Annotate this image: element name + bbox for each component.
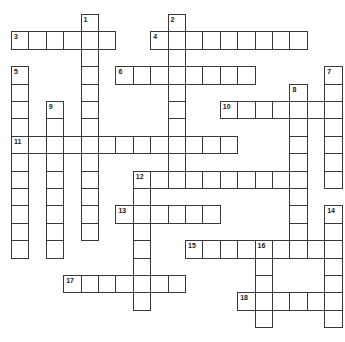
crossword-cell[interactable] — [255, 31, 273, 49]
crossword-cell[interactable]: 12 — [133, 171, 151, 189]
crossword-cell[interactable] — [46, 153, 64, 171]
crossword-cell[interactable] — [220, 171, 238, 189]
crossword-cell[interactable] — [289, 136, 307, 154]
crossword-cell[interactable] — [133, 292, 151, 310]
crossword-cell[interactable] — [63, 136, 81, 154]
crossword-cell[interactable] — [81, 49, 99, 67]
crossword-cell[interactable] — [46, 188, 64, 206]
crossword-cell[interactable] — [202, 66, 220, 84]
crossword-cell[interactable] — [289, 171, 307, 189]
crossword-cell[interactable] — [272, 101, 290, 119]
crossword-cell[interactable] — [133, 136, 151, 154]
crossword-cell[interactable] — [202, 31, 220, 49]
crossword-cell[interactable] — [28, 136, 46, 154]
crossword-cell[interactable] — [81, 101, 99, 119]
crossword-cell[interactable] — [81, 275, 99, 293]
crossword-cell[interactable] — [307, 292, 325, 310]
crossword-cell[interactable] — [324, 258, 342, 276]
crossword-cell[interactable] — [150, 171, 168, 189]
crossword-cell[interactable] — [98, 136, 116, 154]
crossword-cell[interactable]: 3 — [11, 31, 29, 49]
crossword-cell[interactable] — [133, 258, 151, 276]
crossword-cell[interactable] — [98, 275, 116, 293]
crossword-cell[interactable] — [46, 118, 64, 136]
crossword-cell[interactable]: 11 — [11, 136, 29, 154]
crossword-cell[interactable] — [255, 310, 273, 328]
crossword-cell[interactable]: 5 — [11, 66, 29, 84]
crossword-cell[interactable]: 4 — [150, 31, 168, 49]
crossword-cell[interactable] — [202, 240, 220, 258]
crossword-cell[interactable] — [255, 258, 273, 276]
crossword-cell[interactable] — [255, 292, 273, 310]
crossword-cell[interactable] — [289, 101, 307, 119]
crossword-cell[interactable]: 18 — [237, 292, 255, 310]
crossword-cell[interactable]: 15 — [185, 240, 203, 258]
crossword-cell[interactable] — [81, 66, 99, 84]
crossword-cell[interactable] — [168, 205, 186, 223]
crossword-cell[interactable] — [11, 205, 29, 223]
crossword-cell[interactable] — [81, 188, 99, 206]
crossword-cell[interactable]: 16 — [255, 240, 273, 258]
crossword-cell[interactable] — [237, 66, 255, 84]
crossword-cell[interactable] — [220, 240, 238, 258]
crossword-cell[interactable] — [46, 205, 64, 223]
crossword-cell[interactable] — [150, 275, 168, 293]
crossword-cell[interactable] — [324, 223, 342, 241]
crossword-cell[interactable] — [324, 101, 342, 119]
crossword-cell[interactable]: 2 — [168, 14, 186, 32]
crossword-cell[interactable] — [307, 101, 325, 119]
crossword-cell[interactable] — [185, 171, 203, 189]
crossword-cell[interactable] — [11, 84, 29, 102]
crossword-cell[interactable]: 14 — [324, 205, 342, 223]
crossword-cell[interactable] — [133, 66, 151, 84]
crossword-cell[interactable] — [81, 84, 99, 102]
crossword-cell[interactable] — [272, 240, 290, 258]
crossword-cell[interactable] — [168, 171, 186, 189]
crossword-cell[interactable] — [133, 188, 151, 206]
crossword-cell[interactable] — [168, 118, 186, 136]
crossword-cell[interactable] — [185, 66, 203, 84]
crossword-cell[interactable] — [202, 171, 220, 189]
crossword-cell[interactable] — [98, 31, 116, 49]
crossword-cell[interactable] — [324, 118, 342, 136]
crossword-cell[interactable] — [168, 31, 186, 49]
crossword-cell[interactable] — [168, 66, 186, 84]
crossword-cell[interactable] — [46, 223, 64, 241]
crossword-cell[interactable]: 1 — [81, 14, 99, 32]
crossword-cell[interactable] — [324, 275, 342, 293]
crossword-cell[interactable] — [289, 118, 307, 136]
crossword-cell[interactable] — [220, 66, 238, 84]
crossword-cell[interactable] — [185, 136, 203, 154]
crossword-cell[interactable] — [202, 205, 220, 223]
crossword-cell[interactable] — [255, 101, 273, 119]
crossword-cell[interactable] — [133, 240, 151, 258]
crossword-cell[interactable] — [255, 171, 273, 189]
crossword-cell[interactable] — [168, 84, 186, 102]
crossword-cell[interactable] — [289, 205, 307, 223]
crossword-cell[interactable] — [168, 153, 186, 171]
crossword-cell[interactable]: 10 — [220, 101, 238, 119]
crossword-cell[interactable] — [324, 310, 342, 328]
crossword-cell[interactable] — [150, 205, 168, 223]
crossword-cell[interactable] — [237, 171, 255, 189]
crossword-cell[interactable] — [133, 223, 151, 241]
crossword-cell[interactable] — [81, 31, 99, 49]
crossword-cell[interactable] — [185, 205, 203, 223]
crossword-cell[interactable] — [220, 136, 238, 154]
crossword-cell[interactable] — [115, 275, 133, 293]
crossword-cell[interactable] — [46, 136, 64, 154]
crossword-cell[interactable] — [168, 49, 186, 67]
crossword-cell[interactable] — [324, 84, 342, 102]
crossword-cell[interactable]: 9 — [46, 101, 64, 119]
crossword-cell[interactable] — [237, 31, 255, 49]
crossword-cell[interactable] — [11, 153, 29, 171]
crossword-cell[interactable] — [289, 292, 307, 310]
crossword-cell[interactable] — [133, 275, 151, 293]
crossword-cell[interactable] — [255, 275, 273, 293]
crossword-cell[interactable] — [168, 101, 186, 119]
crossword-cell[interactable] — [115, 136, 133, 154]
crossword-cell[interactable] — [150, 66, 168, 84]
crossword-cell[interactable] — [324, 153, 342, 171]
crossword-cell[interactable] — [46, 171, 64, 189]
crossword-cell[interactable] — [272, 171, 290, 189]
